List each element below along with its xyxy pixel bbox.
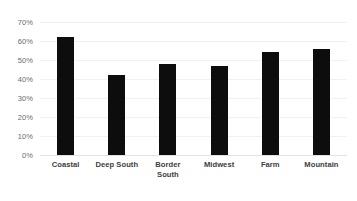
bar-slot — [194, 22, 245, 155]
y-axis-tick-label: 0% — [22, 151, 33, 160]
bar-series — [40, 22, 347, 155]
bar-slot — [91, 22, 142, 155]
y-axis-tick-label: 40% — [18, 75, 33, 84]
x-axis-category-labels: CoastalDeep SouthBorderSouthMidwestFarmM… — [40, 160, 347, 180]
y-axis-tick-labels: 0%10%20%30%40%50%60%70% — [0, 0, 40, 201]
bar — [262, 52, 279, 155]
bar-slot — [142, 22, 193, 155]
axis-baseline — [40, 155, 347, 156]
y-axis-tick-label: 10% — [18, 132, 33, 141]
x-axis-category: Deep South — [91, 160, 142, 180]
x-axis-category-label: Deep South — [91, 160, 142, 170]
x-axis-category-label: Coastal — [40, 160, 91, 170]
plot-area — [40, 22, 347, 155]
bar-chart: 0%10%20%30%40%50%60%70% CoastalDeep Sout… — [0, 0, 357, 201]
bar-slot — [296, 22, 347, 155]
y-axis-tick-label: 70% — [18, 18, 33, 27]
x-axis-category: Coastal — [40, 160, 91, 180]
x-axis-category: BorderSouth — [142, 160, 193, 180]
bar-slot — [40, 22, 91, 155]
y-axis-tick-label: 30% — [18, 94, 33, 103]
x-axis-category-label: Midwest — [194, 160, 245, 170]
x-axis-category: Farm — [245, 160, 296, 180]
bar — [57, 37, 74, 155]
bar — [159, 64, 176, 155]
bar-slot — [245, 22, 296, 155]
x-axis-category: Midwest — [194, 160, 245, 180]
bar — [313, 49, 330, 155]
x-axis-category: Mountain — [296, 160, 347, 180]
x-axis-category-label: Mountain — [296, 160, 347, 170]
x-axis-category-label: Farm — [245, 160, 296, 170]
bar — [108, 75, 125, 155]
y-axis-tick-label: 50% — [18, 56, 33, 65]
y-axis-tick-label: 20% — [18, 113, 33, 122]
x-axis-category-label: Border — [142, 160, 193, 170]
y-axis-tick-label: 60% — [18, 37, 33, 46]
x-axis-category-label: South — [142, 170, 193, 180]
bar — [211, 66, 228, 155]
